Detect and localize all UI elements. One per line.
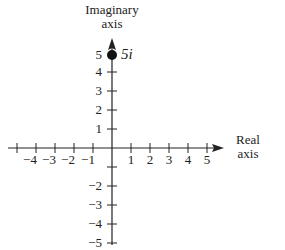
y-tick-label: −5 [72, 236, 102, 250]
x-tick-label: −4 [23, 153, 37, 167]
y-tick-label: −3 [72, 198, 102, 212]
real-axis-label: Real axis [230, 133, 266, 161]
y-tick-label: 5 [72, 48, 102, 62]
y-tick-label: 2 [72, 103, 102, 117]
x-tick-label: 1 [128, 153, 135, 167]
y-tick-label: 4 [72, 65, 102, 79]
y-tick-label: −2 [72, 179, 102, 193]
point-label: 5i [121, 46, 133, 63]
x-tick-label: −2 [61, 153, 75, 167]
point-5i [107, 50, 117, 60]
x-tick-label: 3 [166, 153, 173, 167]
x-tick-label: 2 [147, 153, 154, 167]
x-tick-label: 5 [204, 153, 211, 167]
y-tick-label: 1 [72, 122, 102, 136]
complex-plane-axes [0, 0, 285, 250]
x-tick-label: −3 [42, 153, 56, 167]
x-tick-label: 4 [185, 153, 192, 167]
imaginary-axis-label: Imaginary axis [82, 3, 142, 31]
x-tick-label: −1 [81, 153, 95, 167]
y-tick-label: −4 [72, 217, 102, 231]
y-tick-label: 3 [72, 84, 102, 98]
